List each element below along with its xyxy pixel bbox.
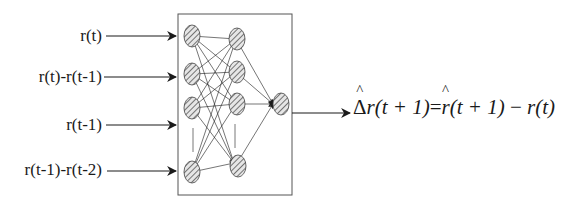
input-node bbox=[184, 97, 200, 119]
lhs-var: r bbox=[367, 95, 375, 119]
hidden-node bbox=[230, 155, 246, 177]
delta-hat: Δ bbox=[353, 95, 367, 120]
output-formula: Δr(t + 1)=r(t + 1) − r(t) bbox=[353, 95, 555, 120]
output-node bbox=[273, 93, 289, 115]
rhs-hat-var: r bbox=[442, 95, 450, 120]
input-node bbox=[184, 161, 200, 183]
minus-sign: − bbox=[505, 95, 527, 119]
hidden-node bbox=[229, 61, 245, 83]
equals-sign: = bbox=[430, 95, 442, 119]
rhs-arg: (t + 1) bbox=[450, 95, 505, 119]
input-node bbox=[184, 25, 200, 47]
hidden-node bbox=[229, 28, 245, 50]
hidden-node bbox=[229, 93, 245, 115]
input-arrows bbox=[104, 36, 176, 171]
rhs2: r(t) bbox=[527, 95, 555, 119]
lhs-arg: (t + 1) bbox=[375, 95, 430, 119]
input-node bbox=[184, 63, 200, 85]
